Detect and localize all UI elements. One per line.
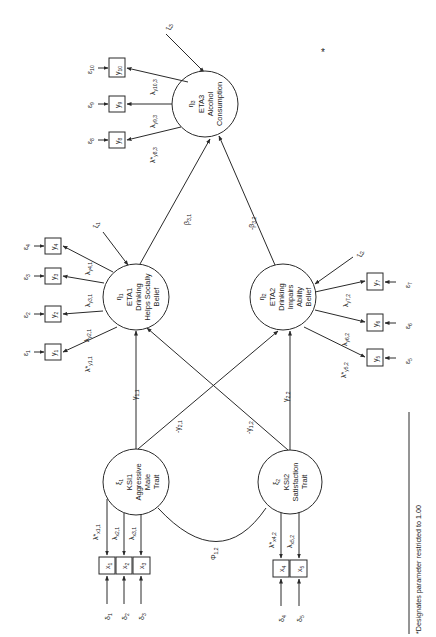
loading-arrow-y6 [315,310,365,322]
lambda-x1-1-label: λ*x1,1 [92,524,101,540]
e8-label: ε8 [86,138,95,144]
loading-arrow-y7 [315,281,365,292]
eta1-name: ETA1 [125,288,134,306]
path-gamma-1-2 [147,328,288,450]
e1-label: ε1 [22,350,31,356]
eta3-line2: Consumption [215,82,224,126]
latent-xi2: ξ2 KSI2 Satisfaction Trait [258,450,322,514]
zeta-1-label: ζ1 [92,222,101,228]
e4-label: ε4 [22,244,31,250]
gamma-1-1-label: γ1,1 [131,389,140,400]
d2-label: δ2 [121,613,130,620]
eta1-line1: Drinking [134,283,143,311]
e7-label: ε7 [404,282,413,288]
loading-arrow-y2 [63,311,103,314]
loading-arrow-y3 [63,276,104,283]
footnote: *Designates parameter restricted to 1.00… [321,47,423,634]
latent-xi1: ξ1 KSI1 Aggressive Male Trait [103,449,169,515]
e6-label: ε6 [404,323,413,329]
eta1-line2: Helps Socially [143,273,152,320]
xi1-name: KSI1 [125,474,134,490]
diagram-canvas: ζ1 ζ2 ζ3 η1 ETA1 Drinking Helps Socially… [0,0,436,637]
loading-arrow-y5 [304,327,365,357]
lambda-y1-1-label: λ*y1,1 [84,356,93,372]
xi1-line2: Male [143,474,152,490]
lambda-x5-2-label: λx5,2 [286,535,295,548]
eta2-name: ETA2 [268,288,277,306]
eta2-line1: Drinking [277,283,286,311]
indicators-xi2: x4 x5 δ4 δ5 λ*x4,2 λx5,2 [268,512,307,622]
gamma-2-1-label: -γ2,1 [174,420,183,433]
eta2-line4: Belief [304,287,313,307]
indicators-eta1: y1 ε1 λ*y1,1 y2 ε2 λy2,1 y3 ε3 λy3,1 y4 … [22,238,117,372]
eta1-line3: Belief [152,287,161,307]
latent-eta2: η2 ETA2 Drinking Impairs Ability Belief [250,264,316,330]
lambda-y3-1-label: λy3,1 [84,294,93,307]
indicators-eta2: y5 ε5 λ*y5,2 y6 ε6 λy6,2 y7 ε7 λy7,2 [304,273,413,378]
gamma-1-2-label: -γ1,2 [245,421,254,434]
indicators-xi1: x1 x2 x3 δ1 δ2 δ3 λ*x1,1 λx2,1 λx3,1 [92,499,150,620]
covariance-phi-1-2 [158,508,266,542]
e10-label: ε10 [86,65,95,74]
e5-label: ε5 [404,358,413,364]
e2-label: ε2 [22,312,31,318]
eta3-line1: Alcohol [206,91,215,116]
sem-path-diagram: ζ1 ζ2 ζ3 η1 ETA1 Drinking Helps Socially… [0,0,436,637]
zeta-3-label: ζ3 [165,24,174,30]
xi2-line1: Satisfaction [291,463,300,502]
lambda-y10-3-label: λy10,3 [149,79,158,95]
lambda-x4-2-label: λ*x4,2 [268,532,277,548]
footnote-text: *Designates parameter restricted to 1.00 [414,505,423,634]
zeta-3-arrow [166,34,204,72]
lambda-y7-2-label: λy7,2 [342,294,351,307]
phi-1-2-label: Φ1,2 [210,547,219,560]
lambda-x2-1-label: λx2,1 [111,527,120,540]
d1-label: δ1 [104,613,113,620]
eta2-line2: Impairs [286,284,295,309]
lambda-y2-1-label: λy2,1 [83,329,92,342]
xi2-name: KSI2 [282,474,291,490]
zeta-2-arrow [315,257,353,284]
eta2-line3: Ability [295,287,304,307]
asterisk-mark: * [321,47,325,58]
d5-label: δ5 [296,615,305,622]
lambda-y8-3-label: λ*y8,3 [149,147,158,163]
lambda-x3-1-label: λx3,1 [128,527,137,540]
zeta-2-label: ζ2 [356,251,365,257]
eta3-name: ETA3 [197,95,206,113]
path-beta-3-2 [219,136,275,265]
xi1-line1: Aggressive [134,463,143,500]
beta-3-1-label: β3,1 [183,214,192,225]
beta-3-2-label: -β3,2 [248,216,257,230]
latent-eta1: η1 ETA1 Drinking Helps Socially Belief [103,264,169,330]
lambda-y4-1-label: λy4,1 [84,262,93,275]
lambda-y6-2-label: λy6,2 [341,333,350,346]
d3-label: δ3 [138,613,147,620]
e3-label: ε3 [22,274,31,280]
xi2-line2: Trait [300,474,309,490]
path-gamma-2-1 [138,331,278,449]
d4-label: δ4 [278,615,287,622]
xi1-line3: Trait [152,474,161,490]
disturbances: ζ1 ζ2 ζ3 [92,24,365,284]
lambda-y9-3-label: λy9,3 [149,115,158,128]
lambda-y5-2-label: λ*y5,2 [340,362,349,378]
zeta-1-arrow [103,232,128,265]
e9-label: ε9 [86,102,95,108]
